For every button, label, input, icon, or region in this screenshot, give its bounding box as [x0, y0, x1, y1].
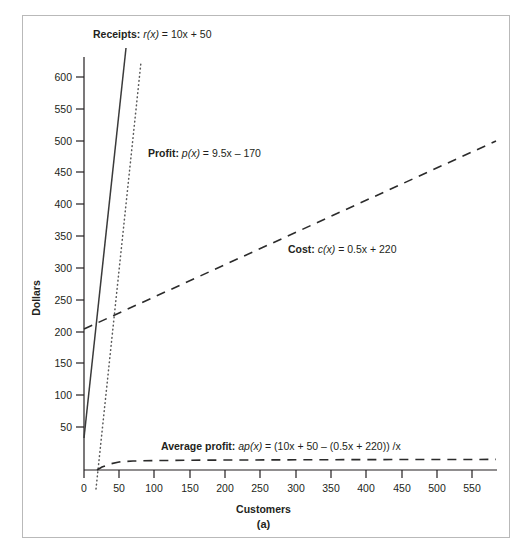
- annotation-average-profit-prefix: Average profit:: [161, 440, 238, 452]
- x-tick-label-250: 250: [251, 482, 269, 494]
- y-tick-label-500: 500: [34, 135, 72, 147]
- x-tick-label-500: 500: [428, 482, 446, 494]
- y-tick-label-400: 400: [34, 198, 72, 210]
- y-tick-label-150: 150: [34, 357, 72, 369]
- y-tick-label-450: 450: [34, 166, 72, 178]
- annotation-cost: Cost: c(x) = 0.5x + 220: [288, 243, 397, 255]
- x-tick-label-0: 0: [81, 482, 87, 494]
- chart-frame: [22, 15, 510, 538]
- annotation-cost-prefix: Cost:: [288, 243, 318, 255]
- y-tick-label-50: 50: [34, 421, 72, 433]
- x-axis-title: Customers: [0, 503, 527, 515]
- annotation-receipts-fn: r(x): [143, 28, 159, 40]
- annotation-profit-eq: = 9.5x – 170: [200, 147, 261, 159]
- annotation-receipts-prefix: Receipts:: [93, 28, 143, 40]
- annotation-profit: Profit: p(x) = 9.5x – 170: [148, 147, 261, 159]
- x-tick-label-100: 100: [145, 482, 163, 494]
- y-tick-label-100: 100: [34, 389, 72, 401]
- x-tick-label-550: 550: [463, 482, 481, 494]
- x-tick-label-200: 200: [216, 482, 234, 494]
- annotation-average-profit: Average profit: ap(x) = (10x + 50 – (0.5…: [161, 440, 401, 452]
- x-tick-label-300: 300: [287, 482, 305, 494]
- x-tick-label-50: 50: [113, 482, 125, 494]
- annotation-receipts-eq: = 10x + 50: [159, 28, 212, 40]
- y-tick-label-350: 350: [34, 230, 72, 242]
- y-axis-title: Dollars: [30, 258, 42, 338]
- x-tick-label-400: 400: [357, 482, 375, 494]
- y-tick-label-550: 550: [34, 103, 72, 115]
- x-tick-label-150: 150: [181, 482, 199, 494]
- annotation-average-profit-fn: ap(x): [238, 440, 262, 452]
- annotation-receipts: Receipts: r(x) = 10x + 50: [93, 28, 211, 40]
- annotation-profit-prefix: Profit:: [148, 147, 182, 159]
- x-tick-label-450: 450: [393, 482, 411, 494]
- annotation-profit-fn: p(x): [182, 147, 200, 159]
- annotation-cost-eq: = 0.5x + 220: [335, 243, 396, 255]
- panel-caption: (a): [0, 518, 527, 530]
- annotation-cost-fn: c(x): [318, 243, 336, 255]
- y-tick-label-600: 600: [34, 71, 72, 83]
- annotation-average-profit-eq: = (10x + 50 – (0.5x + 220)) /x: [262, 440, 401, 452]
- figure-root: 600 550 500 450 400 350 300 250 200 150 …: [0, 0, 527, 559]
- x-tick-label-350: 350: [322, 482, 340, 494]
